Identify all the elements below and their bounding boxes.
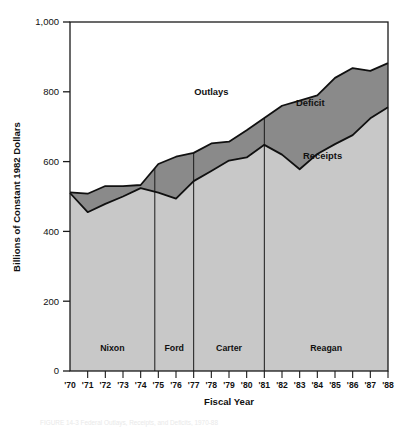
area-chart: 02004006008001,000 '70'71'72'73'74'75'76… (0, 0, 416, 431)
x-tick-label: '81 (259, 380, 271, 390)
x-tick-label: '84 (312, 380, 324, 390)
x-tick-label: '77 (188, 380, 200, 390)
y-tick-label: 400 (43, 226, 59, 237)
y-tick-label: 200 (43, 296, 59, 307)
period-label-ford: Ford (164, 343, 184, 353)
y-axis-title: Billions of Constant 1982 Dollars (11, 122, 22, 272)
x-tick-label: '74 (135, 380, 147, 390)
series-label-receipts: Receipts (303, 150, 342, 161)
x-axis: '70'71'72'73'74'75'76'77'78'79'80'81'82'… (64, 371, 394, 390)
x-tick-label: '87 (365, 380, 377, 390)
y-tick-label: 800 (43, 86, 59, 97)
series-label-deficit: Deficit (296, 97, 325, 108)
y-tick-label: 1,000 (35, 16, 59, 27)
y-axis: 02004006008001,000 (35, 16, 70, 376)
period-label-carter: Carter (216, 343, 242, 353)
y-tick-label: 0 (54, 365, 59, 376)
period-label-reagan: Reagan (310, 343, 342, 353)
figure-caption: FIGURE 14-3 Federal Outlays, Receipts, a… (40, 419, 218, 427)
x-tick-label: '79 (223, 380, 235, 390)
series-label-outlays: Outlays (194, 86, 228, 97)
x-tick-label: '71 (82, 380, 94, 390)
x-tick-label: '86 (347, 380, 359, 390)
x-tick-label: '80 (241, 380, 253, 390)
x-tick-label: '72 (100, 380, 112, 390)
x-tick-label: '78 (206, 380, 218, 390)
x-tick-label: '85 (329, 380, 341, 390)
x-tick-label: '70 (64, 380, 76, 390)
x-tick-label: '76 (170, 380, 182, 390)
x-tick-label: '83 (294, 380, 306, 390)
x-tick-label: '75 (153, 380, 165, 390)
x-tick-label: '88 (382, 380, 394, 390)
period-label-nixon: Nixon (100, 343, 124, 353)
y-tick-label: 600 (43, 156, 59, 167)
figure-container: 02004006008001,000 '70'71'72'73'74'75'76… (0, 0, 416, 431)
x-tick-label: '82 (276, 380, 288, 390)
x-tick-label: '73 (117, 380, 129, 390)
x-axis-title: Fiscal Year (204, 396, 254, 407)
